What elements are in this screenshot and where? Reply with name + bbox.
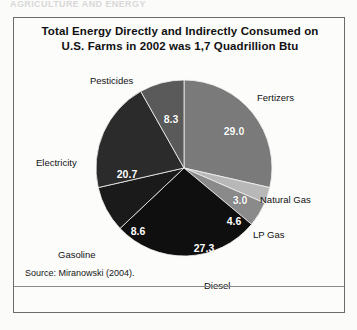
pie-value-natural-gas: 3.0 bbox=[233, 194, 248, 206]
pie-label-electricity: Electricity bbox=[36, 157, 77, 168]
figure-frame: Total Energy Directly and Indirectly Con… bbox=[13, 17, 345, 313]
pie-label-lp-gas: LP Gas bbox=[253, 229, 285, 240]
pie-value-electricity: 20.7 bbox=[117, 168, 137, 180]
pie-value-gasoline: 8.6 bbox=[131, 225, 146, 237]
pie-value-diesel: 27.3 bbox=[194, 242, 214, 254]
pie-value-fertizers: 29.0 bbox=[224, 125, 244, 137]
pie-label-gasoline: Gasoline bbox=[58, 249, 96, 260]
page-header-remnant: AGRICULTURE AND ENERGY bbox=[10, 0, 210, 9]
pie-label-pesticides: Pesticides bbox=[90, 75, 133, 86]
pie-value-lp-gas: 4.6 bbox=[227, 215, 242, 227]
pie-label-fertizers: Fertizers bbox=[257, 92, 294, 103]
source-divider bbox=[14, 286, 344, 287]
pie-label-natural-gas: Natural Gas bbox=[260, 194, 311, 205]
pie-value-pesticides: 8.3 bbox=[164, 113, 179, 125]
source-note: Source: Miranowski (2004). bbox=[25, 268, 135, 278]
